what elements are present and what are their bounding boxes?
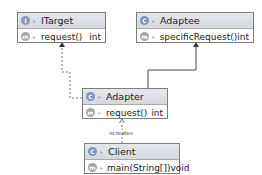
visibility-icon: ▸ [98,110,102,116]
visibility-icon: ▸ [33,18,37,24]
visibility-icon: ▸ [33,34,37,40]
realization-line-adapter-itarget [62,46,82,98]
method-row[interactable]: m ▸ request() int [83,105,167,120]
class-box-adapter[interactable]: C ▸ Adapter m ▸ request() int [82,88,168,119]
method-name: request() [41,32,82,42]
class-header: C ▸ Client [85,144,179,160]
method-name: main(String[]) [107,163,170,173]
method-row[interactable]: m ▸ request() int [18,29,105,44]
class-box-adaptee[interactable]: C ▸ Adaptee m ▸ specificRequest() int [136,12,254,43]
class-name: Adapter [106,91,144,102]
class-icon: C [86,92,95,101]
return-type: void [170,163,189,173]
class-header: C ▸ Adaptee [137,13,253,29]
visibility-icon: ▸ [100,165,103,171]
method-icon: m [140,32,149,41]
method-name: specificRequest() [160,32,238,42]
class-box-client[interactable]: C ▸ Client m ▸ main(String[]) void [84,143,180,174]
class-icon: C [88,147,97,156]
class-box-itarget[interactable]: I ▸ ITarget m ▸ request() int [17,12,106,43]
method-row[interactable]: m ▸ main(String[]) void [85,160,179,175]
visibility-icon: ▸ [100,149,104,155]
interface-icon: I [21,16,30,25]
method-icon: m [88,163,97,172]
method-icon: m [86,108,95,117]
method-name: request() [106,108,147,118]
return-type: int [151,108,163,118]
class-header: I ▸ ITarget [18,13,105,29]
class-name: Client [108,146,136,157]
class-name: Adaptee [160,15,200,26]
create-stereotype-label: «create» [108,130,134,136]
inheritance-line-adapter-adaptee [148,46,196,88]
method-icon: m [21,32,30,41]
class-name: ITarget [41,15,73,26]
method-row[interactable]: m ▸ specificRequest() int [137,29,253,44]
return-type: int [237,32,249,42]
class-icon: C [140,16,149,25]
class-header: C ▸ Adapter [83,89,167,105]
return-type: int [89,32,101,42]
visibility-icon: ▸ [98,94,102,100]
visibility-icon: ▸ [152,34,156,40]
visibility-icon: ▸ [152,18,156,24]
